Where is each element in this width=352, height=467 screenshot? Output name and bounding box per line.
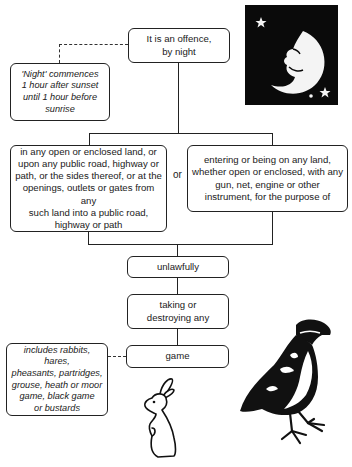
game-note-line: includes rabbits, hares,	[11, 345, 103, 368]
connector-to-game	[177, 329, 178, 345]
entering-line: gun, net, engine or other	[215, 179, 320, 191]
game-note-dashed-connector	[108, 356, 126, 357]
entering-condition-box: entering or being on any land, whether o…	[187, 145, 348, 212]
night-note-line: until 1 hour before	[23, 92, 97, 104]
game-note-line: game, black game	[19, 391, 94, 403]
offence-by-night-box: It is an offence, by night	[128, 28, 230, 63]
connector-to-unlawfully	[177, 244, 178, 256]
night-note-line: sunrise	[45, 104, 75, 116]
taking-line-1: taking or	[160, 299, 197, 311]
moon-illustration	[245, 5, 338, 105]
place-line: such land into a public road,	[29, 207, 148, 219]
or-label: or	[173, 169, 182, 180]
game-definition-note: includes rabbits, hares, pheasants, part…	[6, 343, 108, 416]
game-note-line: grouse, heath or moor	[12, 380, 102, 392]
taking-destroying-box: taking or destroying any	[127, 294, 229, 329]
entering-line: instrument, for the purpose of	[205, 191, 330, 203]
game-note-line: pheasants, partridges,	[12, 368, 103, 380]
unlawfully-text: unlawfully	[157, 261, 199, 273]
place-line: path, or the sides thereof, or at the	[15, 170, 162, 182]
taking-line-2: destroying any	[147, 312, 209, 324]
place-line: upon any public road, highway or	[18, 158, 159, 170]
night-note-dashed-connector-v	[59, 44, 60, 63]
place-condition-box: in any open or enclosed land, or upon an…	[10, 145, 167, 232]
game-box: game	[126, 345, 229, 368]
entering-line: entering or being on any land,	[204, 154, 331, 166]
night-note-line: 1 hour after sunset	[22, 80, 99, 92]
connector-title-down	[178, 63, 179, 134]
offence-line-1: It is an offence,	[147, 33, 212, 45]
game-bird-illustration	[236, 315, 338, 447]
unlawfully-box: unlawfully	[127, 256, 229, 278]
rabbit-icon	[138, 376, 184, 460]
night-definition-note: 'Night' commences 1 hour after sunset un…	[10, 63, 110, 121]
night-note-line: 'Night' commences	[21, 69, 98, 81]
connector-branch-top	[89, 133, 273, 134]
place-line: openings, outlets or gates from any	[15, 182, 162, 206]
offence-line-2: by night	[162, 46, 196, 58]
connector-to-entering-box	[272, 133, 273, 145]
place-line: highway or path	[55, 219, 123, 231]
bird-icon	[236, 315, 338, 447]
connector-to-place-box	[89, 133, 90, 145]
moon-icon	[245, 5, 338, 105]
connector-to-taking	[177, 278, 178, 294]
night-note-dashed-connector-h	[59, 44, 128, 45]
rabbit-illustration	[138, 376, 184, 460]
place-line: in any open or enclosed land, or	[20, 146, 157, 158]
game-note-line: or bustards	[34, 403, 80, 415]
connector-from-entering-box	[272, 212, 273, 245]
game-text: game	[166, 350, 190, 362]
entering-line: whether open or enclosed, with any	[192, 166, 343, 178]
connector-branch-bottom	[88, 244, 273, 245]
